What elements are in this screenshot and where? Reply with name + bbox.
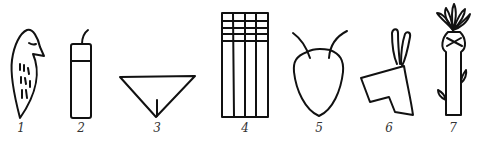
figure-label-6: 6 (379, 121, 399, 135)
figure-label-7: 7 (443, 121, 463, 135)
figure-label-2: 2 (71, 121, 91, 135)
grid-icon (222, 13, 268, 117)
animal-head-icon (361, 29, 413, 115)
triangle-icon (120, 76, 195, 117)
plant-stalk-icon (437, 4, 470, 115)
vessel-icon (71, 30, 91, 118)
figure-label-4: 4 (235, 121, 255, 135)
bird-icon (11, 30, 44, 118)
head-antennae-icon (293, 31, 347, 116)
figure-label-1: 1 (11, 121, 31, 135)
figure-label-5: 5 (309, 121, 329, 135)
figure-label-3: 3 (147, 121, 167, 135)
